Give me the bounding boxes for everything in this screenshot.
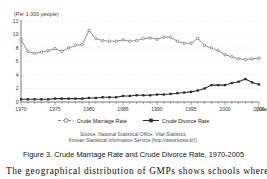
data-point-marker <box>203 87 205 89</box>
y-tick-label: 4 <box>16 72 19 78</box>
data-point-marker <box>251 58 254 61</box>
x-tick-label: 1975 <box>49 106 60 112</box>
x-tick-label: 1995 <box>185 106 196 112</box>
data-point-marker <box>20 39 23 42</box>
y-tick-label: 2 <box>16 85 19 91</box>
data-point-marker <box>190 91 192 93</box>
data-point-marker <box>156 38 159 41</box>
data-point-marker <box>197 89 199 91</box>
data-point-marker <box>244 58 247 61</box>
data-point-marker <box>163 36 166 39</box>
data-point-marker <box>54 97 56 99</box>
data-point-marker <box>183 91 185 93</box>
data-point-marker <box>81 97 83 99</box>
data-point-marker <box>95 97 97 99</box>
data-point-marker <box>27 50 30 53</box>
figure-caption: Figure 3. Crude Marriage Rate and Crude … <box>0 150 267 159</box>
legend-label-crude-divorce-rate: Crude Divorce Rate <box>162 118 209 124</box>
data-point-marker <box>142 94 144 96</box>
y-tick-label: 8 <box>16 45 19 51</box>
data-point-marker <box>244 78 246 80</box>
x-tick-label: 2000 <box>219 106 230 112</box>
data-point-marker <box>47 98 49 100</box>
data-point-marker <box>81 43 84 46</box>
data-point-marker <box>74 97 76 99</box>
data-point-marker <box>190 42 193 45</box>
data-point-marker <box>231 56 234 59</box>
data-point-marker <box>237 81 239 83</box>
data-point-marker <box>258 83 260 85</box>
data-point-marker <box>115 40 118 43</box>
data-point-marker <box>47 49 50 52</box>
data-point-marker <box>27 98 29 100</box>
data-point-marker <box>176 92 178 94</box>
data-point-marker <box>237 58 240 61</box>
data-point-marker <box>122 39 125 42</box>
y-tick-label: 10 <box>13 31 19 37</box>
data-point-marker <box>163 93 165 95</box>
data-point-marker <box>95 37 98 40</box>
data-point-marker <box>129 40 132 43</box>
y-tick-label: 6 <box>16 58 19 64</box>
data-point-marker <box>88 97 90 99</box>
data-point-marker <box>183 42 186 45</box>
data-point-marker <box>197 37 200 40</box>
data-point-marker <box>61 97 63 99</box>
data-point-marker <box>217 84 219 86</box>
data-point-marker <box>251 81 253 83</box>
y-tick-label: 12 <box>13 18 19 24</box>
line-chart: 0246810121970197519801985199019952000200… <box>0 16 267 114</box>
data-point-marker <box>74 44 77 47</box>
source-line-2: Korean Statistical Information Service (… <box>0 138 267 144</box>
legend-item-crude-marriage-rate: Crude Marriage Rate <box>58 117 127 124</box>
data-point-marker <box>122 95 124 97</box>
data-point-marker <box>149 37 152 40</box>
data-point-marker <box>210 47 213 50</box>
data-point-marker <box>54 47 57 50</box>
x-tick-label: 1970 <box>15 106 26 112</box>
data-point-marker <box>169 93 171 95</box>
legend-label-crude-marriage-rate: Crude Marriage Rate <box>77 118 127 124</box>
y-tick-label: 0 <box>16 99 19 105</box>
data-point-marker <box>67 97 69 99</box>
data-point-marker <box>101 39 104 42</box>
data-point-marker <box>20 98 22 100</box>
data-point-marker <box>156 93 158 95</box>
data-point-marker <box>169 36 172 39</box>
x-axis-label: (Year) <box>256 106 267 112</box>
data-point-marker <box>108 96 110 98</box>
data-point-marker <box>203 44 206 47</box>
data-point-marker <box>40 98 42 100</box>
data-point-marker <box>61 50 64 53</box>
chart-legend: Crude Marriage Rate Crude Divorce Rate <box>0 117 267 124</box>
data-point-marker <box>33 52 36 55</box>
filled-square-marker-icon <box>143 117 159 124</box>
data-point-marker <box>129 95 131 97</box>
data-point-marker <box>217 49 220 52</box>
data-point-marker <box>149 94 151 96</box>
data-point-marker <box>231 82 233 84</box>
legend-item-crude-divorce-rate: Crude Divorce Rate <box>143 117 209 124</box>
data-point-marker <box>101 96 103 98</box>
data-point-marker <box>135 94 137 96</box>
source-note: Source: National Statistical Office, Vit… <box>0 132 267 145</box>
data-point-marker <box>135 39 138 42</box>
figure-container: (Per 1,000 people) 024681012197019751980… <box>0 0 267 179</box>
data-point-marker <box>258 57 261 60</box>
x-tick-label: 1990 <box>151 106 162 112</box>
data-point-marker <box>224 54 227 57</box>
data-point-marker <box>142 37 145 40</box>
data-point-marker <box>176 40 179 43</box>
data-point-marker <box>67 47 70 50</box>
data-point-marker <box>88 29 91 32</box>
data-point-marker <box>224 84 226 86</box>
data-point-marker <box>210 84 212 86</box>
data-point-marker <box>40 51 43 54</box>
data-point-marker <box>115 96 117 98</box>
data-point-marker <box>33 98 35 100</box>
open-circle-marker-icon <box>58 117 74 124</box>
x-tick-label: 1985 <box>117 106 128 112</box>
body-paragraph-fragment: The geographical distribution of GMPs sh… <box>6 166 267 176</box>
x-tick-label: 1980 <box>83 106 94 112</box>
data-point-marker <box>108 40 111 43</box>
